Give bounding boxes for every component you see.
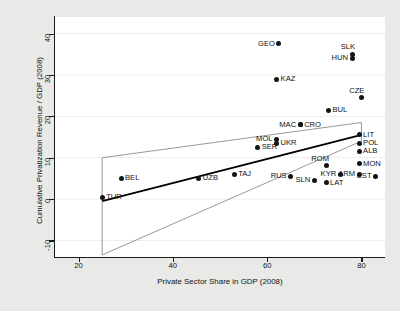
- data-point-label: RUS: [271, 172, 287, 180]
- data-point-label: EST: [357, 172, 372, 180]
- data-point-label: ROM: [311, 155, 329, 163]
- x-tick-label: 80: [346, 261, 376, 270]
- data-point: [312, 178, 317, 183]
- data-point: [350, 56, 355, 61]
- y-tick-label: 40: [43, 33, 52, 57]
- y-axis-title: Cumulative Privatization Revenue / GDP (…: [35, 36, 44, 246]
- data-point-label: BEL: [125, 174, 139, 182]
- data-point: [288, 174, 293, 179]
- data-point-label: BUL: [332, 106, 347, 114]
- y-tick-label: 10: [43, 157, 52, 181]
- gridlines-group: [55, 34, 385, 241]
- data-point: [298, 122, 303, 127]
- x-axis-line: [54, 257, 385, 258]
- data-point-label: UZB: [203, 174, 218, 182]
- data-point: [119, 176, 124, 181]
- plot-panel: GEOSLKHUNKAZCZEBULCROMACLITMOLUKRPOLSERA…: [55, 17, 385, 257]
- data-point-label: UKR: [281, 139, 297, 147]
- data-point: [373, 174, 378, 179]
- data-point-label: SER: [262, 143, 278, 151]
- data-point-label: TAJ: [238, 170, 251, 178]
- data-point-label: ALB: [363, 147, 377, 155]
- data-point: [357, 141, 362, 146]
- data-point: [100, 195, 105, 200]
- fit-line: [102, 135, 361, 201]
- confidence-band-outline: [102, 123, 361, 255]
- data-point-label: MAC: [279, 121, 296, 129]
- data-point: [338, 172, 343, 177]
- data-point-label: SLN: [296, 176, 311, 184]
- data-point-label: LAT: [330, 179, 343, 187]
- privatization-revenue-scatter-figure: GEOSLKHUNKAZCZEBULCROMACLITMOLUKRPOLSERA…: [0, 0, 400, 311]
- x-tick-label: 60: [252, 261, 282, 270]
- data-point-label: CRO: [304, 121, 321, 129]
- y-tick-label: -10: [43, 240, 52, 264]
- data-point-label: SLK: [341, 43, 355, 51]
- confidence-band-group: [102, 123, 361, 255]
- data-point: [232, 172, 237, 177]
- data-point-label: HUN: [332, 54, 348, 62]
- x-tick-label: 20: [64, 261, 94, 270]
- data-point: [357, 149, 362, 154]
- data-point: [324, 180, 329, 185]
- data-point-label: CZE: [349, 87, 364, 95]
- data-point-label: GEO: [258, 40, 275, 48]
- data-point: [326, 108, 331, 113]
- y-tick-label: 30: [43, 74, 52, 98]
- data-point-label: MON: [363, 160, 381, 168]
- regression-line: [102, 135, 361, 201]
- data-point: [274, 77, 279, 82]
- y-tick-label: 20: [43, 116, 52, 140]
- data-point-label: TUR: [106, 193, 122, 201]
- x-tick-label: 40: [158, 261, 188, 270]
- y-tick-label: 0: [43, 199, 52, 223]
- y-axis-line: [54, 16, 55, 258]
- data-point-label: KAZ: [281, 75, 296, 83]
- x-axis-title: Private Sector Share in GDP (2008): [55, 277, 385, 286]
